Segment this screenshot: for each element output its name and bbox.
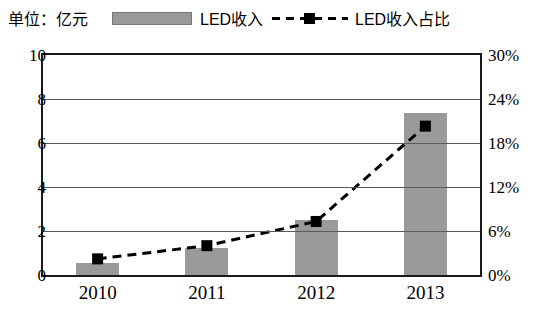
bar-swatch-icon <box>112 12 192 25</box>
plot-area <box>41 53 482 277</box>
y-tick-label-right: 30% <box>488 47 533 64</box>
y-tick-label-left: 4 <box>0 179 46 196</box>
line-series-layer <box>43 55 480 275</box>
y-tick-label-right: 6% <box>488 223 533 240</box>
y-tick-label-left: 6 <box>0 135 46 152</box>
legend-label-line-series: LED收入占比 <box>355 6 450 30</box>
legend-item-line-series: LED收入占比 <box>272 6 450 28</box>
chart-legend: 单位：亿元 LED收入 LED收入占比 <box>0 0 533 34</box>
gridline <box>43 99 480 100</box>
y-tick-label-right: 0% <box>488 267 533 284</box>
line-path <box>98 126 426 259</box>
gridline <box>43 231 480 232</box>
y-tick-label-right: 12% <box>488 179 533 196</box>
line-series-svg <box>43 55 480 275</box>
gridline <box>43 143 480 144</box>
legend-label-bar-series: LED收入 <box>200 6 263 30</box>
y-tick-label-right: 18% <box>488 135 533 152</box>
y-tick-label-left: 8 <box>0 91 46 108</box>
y-tick-label-right: 24% <box>488 91 533 108</box>
line-marker-2012 <box>311 216 322 227</box>
chart-container: 单位：亿元 LED收入 LED收入占比 02468100%6%12%18%24%… <box>0 0 533 309</box>
line-marker-2013 <box>420 121 431 132</box>
gridline <box>43 187 480 188</box>
dashed-line-marker-icon <box>272 12 348 24</box>
y-tick-label-left: 2 <box>0 223 46 240</box>
x-tick-label-2012: 2012 <box>271 283 361 302</box>
line-marker-2010 <box>92 253 103 264</box>
y-tick-label-left: 10 <box>0 47 46 64</box>
line-marker-2011 <box>201 240 212 251</box>
x-tick-label-2010: 2010 <box>53 283 143 302</box>
y-tick-label-left: 0 <box>0 267 46 284</box>
x-tick-label-2011: 2011 <box>162 283 252 302</box>
unit-label: 单位：亿元 <box>8 6 88 30</box>
legend-item-bar-series: LED收入 <box>112 6 263 28</box>
x-tick-label-2013: 2013 <box>380 283 470 302</box>
